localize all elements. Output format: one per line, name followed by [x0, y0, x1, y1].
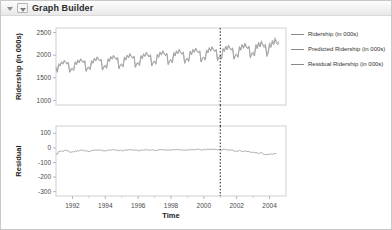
y-tick-label: 2000 [37, 51, 52, 58]
x-tick-label: 2002 [229, 202, 244, 209]
y-tick-label: 100 [40, 129, 51, 136]
legend-item[interactable]: Predicted Ridership (in 000s) [291, 45, 391, 53]
y-tick-label: 2500 [37, 29, 52, 36]
window-title: Graph Builder [32, 4, 93, 13]
triangle-down-box-icon[interactable] [17, 3, 28, 13]
legend-swatch-icon [291, 49, 304, 50]
x-tick-label: 1994 [98, 202, 113, 209]
x-tick-label: 2000 [197, 202, 212, 209]
y-axis-title: Ridership (in 000s) [14, 32, 23, 100]
legend-item[interactable]: Ridership (in 000s) [291, 30, 391, 38]
x-tick-label: 1992 [65, 202, 80, 209]
legend-item-label: Predicted Ridership (in 000s) [308, 46, 385, 52]
legend-item-label: Residual Ridership (in 000s) [308, 61, 383, 67]
y-tick-label: -300 [38, 188, 51, 195]
y-tick-label: -200 [38, 173, 51, 180]
x-tick-label: 2004 [262, 202, 277, 209]
graph-builder-window: Graph Builder 1000150020002500Ridership … [0, 0, 392, 230]
window-titlebar: Graph Builder [1, 1, 391, 16]
y-tick-label: 1500 [37, 74, 52, 81]
legend-swatch-icon [291, 34, 304, 35]
graph-content-area: 1000150020002500Ridership (in 000s)1000-… [1, 16, 391, 229]
y-tick-label: -100 [38, 159, 51, 166]
legend: Ridership (in 000s) Predicted Ridership … [291, 30, 391, 75]
x-axis-title: Time [162, 211, 179, 220]
y-tick-label: 1000 [37, 97, 52, 104]
x-tick-label: 1998 [164, 202, 179, 209]
y-tick-label: 0 [47, 144, 51, 151]
legend-item[interactable]: Residual Ridership (in 000s) [291, 60, 391, 68]
x-tick-label: 1996 [131, 202, 146, 209]
legend-swatch-icon [291, 64, 304, 65]
triangle-down-icon[interactable] [6, 4, 15, 13]
panel-frame [56, 126, 286, 196]
y-axis-title: Residual [14, 145, 23, 176]
legend-item-label: Ridership (in 000s) [308, 31, 358, 37]
